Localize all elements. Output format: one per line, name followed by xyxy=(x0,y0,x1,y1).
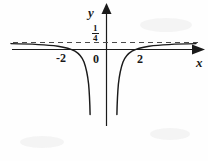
y-axis-label: y xyxy=(88,6,94,19)
curve-right-branch xyxy=(117,44,196,115)
x-axis-label: x xyxy=(196,56,203,69)
fraction-denominator: 4 xyxy=(92,34,99,43)
origin-label: 0 xyxy=(93,53,99,65)
x-tick-label-negative-2: -2 xyxy=(56,52,66,64)
graph-figure: y x 0 -2 2 1 4 xyxy=(0,0,208,161)
asymptote-value-label: 1 4 xyxy=(92,24,99,43)
x-tick-label-positive-2: 2 xyxy=(137,53,143,65)
curve-left-branch xyxy=(11,44,90,115)
y-axis-arrow-icon xyxy=(102,3,112,14)
x-axis-arrow-icon xyxy=(192,45,205,55)
graph-canvas xyxy=(0,0,208,161)
